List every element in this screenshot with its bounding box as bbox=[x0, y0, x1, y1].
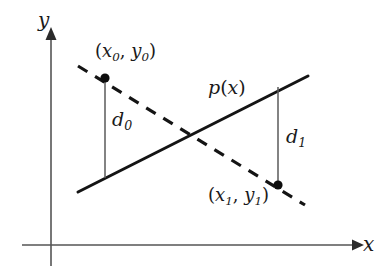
d0-symbol: d bbox=[112, 108, 124, 130]
p-of-x-open-paren: ( bbox=[220, 76, 227, 98]
point1-open-paren: ( bbox=[208, 184, 215, 205]
point0-close-paren: ) bbox=[149, 40, 156, 61]
d1-subscript: 1 bbox=[298, 135, 306, 150]
point0-open-paren: ( bbox=[95, 40, 102, 61]
x-axis-label: x bbox=[363, 234, 374, 254]
approximation-function-label: p(x) bbox=[208, 78, 246, 97]
y-axis-label: y bbox=[38, 10, 49, 30]
point1-x-symbol: x bbox=[215, 184, 225, 205]
point0-y-subscript: 0 bbox=[141, 50, 149, 64]
point0-comma: , bbox=[120, 40, 131, 61]
point0-x-subscript: 0 bbox=[112, 50, 120, 64]
data-point-0-label: (x0, y0) bbox=[95, 42, 156, 60]
p-of-x-var: x bbox=[228, 76, 239, 98]
point1-x-subscript: 1 bbox=[225, 194, 233, 208]
data-point-marker-1 bbox=[273, 180, 282, 189]
p-of-x-fn: p bbox=[208, 76, 220, 98]
residual-d0-label: d0 bbox=[112, 110, 132, 129]
residual-d1-label: d1 bbox=[286, 127, 306, 146]
diagram-canvas bbox=[0, 0, 392, 269]
point1-close-paren: ) bbox=[262, 184, 269, 205]
math-figure: y x p(x) (x0, y0) (x1, y1) d0 d1 bbox=[0, 0, 392, 269]
data-point-marker-0 bbox=[100, 73, 109, 82]
point0-x-symbol: x bbox=[102, 40, 112, 61]
axes-group bbox=[22, 27, 364, 266]
p-of-x-close-paren: ) bbox=[238, 76, 245, 98]
point1-y-symbol: y bbox=[244, 184, 254, 205]
d0-subscript: 0 bbox=[124, 118, 132, 133]
data-point-1-label: (x1, y1) bbox=[208, 186, 269, 204]
point0-y-symbol: y bbox=[131, 40, 141, 61]
approximation-line-p-of-x bbox=[78, 76, 308, 192]
point1-y-subscript: 1 bbox=[254, 194, 262, 208]
point1-comma: , bbox=[233, 184, 244, 205]
d1-symbol: d bbox=[286, 125, 298, 147]
